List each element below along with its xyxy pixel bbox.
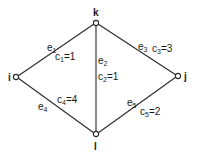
edge-e5 xyxy=(98,77,176,133)
node-j xyxy=(175,73,180,78)
cost-label-c4: c4=4 xyxy=(57,94,78,106)
cost-label-c1: c1=1 xyxy=(55,51,76,63)
node-label-l: l xyxy=(94,141,97,152)
node-label-j: j xyxy=(183,71,187,82)
node-l xyxy=(93,131,98,136)
node-i xyxy=(13,74,18,79)
graph-svg: k i j l e1 c1=1 e2 c2=1 e3 c3=3 e4 c4=4 … xyxy=(0,0,197,157)
edge-label-e4: e4 xyxy=(38,101,48,113)
network-graph-diagram: k i j l e1 c1=1 e2 c2=1 e3 c3=3 e4 c4=4 … xyxy=(0,0,197,157)
cost-label-c5: c5=2 xyxy=(140,106,161,118)
node-label-i: i xyxy=(8,72,11,83)
edge-label-e5: e5 xyxy=(127,97,137,109)
cost-label-c2: c2=1 xyxy=(98,71,119,83)
edge-e4 xyxy=(18,78,94,133)
cost-label-c3: c3=3 xyxy=(152,43,173,55)
node-label-k: k xyxy=(93,7,99,18)
node-k xyxy=(93,20,98,25)
edge-label-e3: e3 xyxy=(138,41,148,53)
edge-label-e2: e2 xyxy=(98,55,108,67)
